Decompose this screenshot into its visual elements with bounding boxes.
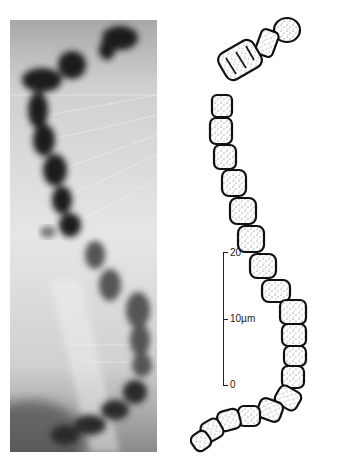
- scale-tick-middle: [223, 319, 228, 320]
- scale-bar: 20 10µm 0: [223, 252, 283, 392]
- scale-tick-top: [223, 252, 228, 253]
- scale-label-middle: 10µm: [230, 314, 255, 324]
- scale-tick-bottom: [223, 385, 228, 386]
- scale-label-bottom: 0: [230, 380, 236, 390]
- micrograph-photo: [10, 20, 157, 452]
- scale-label-top: 20: [230, 248, 241, 258]
- chromosome-drawing: [190, 0, 350, 465]
